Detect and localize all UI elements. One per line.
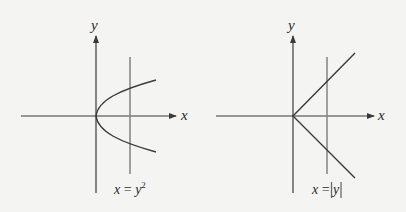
diagram-canvas (0, 0, 406, 212)
right-equation-lhs: x (312, 182, 318, 197)
left-equation-label: x = y2 (114, 181, 146, 197)
right-equation-label: x =|y| (312, 180, 343, 197)
right-graph (216, 36, 374, 193)
left-y-axis-label: y (91, 18, 98, 33)
left-graph (21, 36, 176, 193)
left-equation-lhs: x (114, 182, 120, 197)
left-equation-exponent: 2 (141, 180, 146, 190)
left-equation-op: = (124, 182, 132, 197)
vertical-line-test-figure: y x x = y2 y x x =|y| (0, 0, 406, 212)
left-x-axis-label: x (181, 108, 188, 123)
right-equation-abs-close: | (339, 179, 342, 198)
right-equation-op: = (322, 182, 330, 197)
right-x-axis-label: x (378, 108, 385, 123)
right-y-axis-label: y (288, 18, 295, 33)
